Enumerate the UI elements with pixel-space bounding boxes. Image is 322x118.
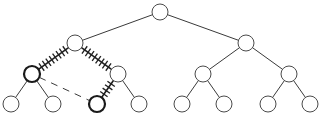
- tree-node-n6: [281, 66, 297, 82]
- edge-solid-n6-n14: [294, 81, 306, 98]
- hatch-tick: [100, 92, 107, 97]
- edge-solid-n5-n11: [187, 81, 199, 98]
- edge-solid-n0-n1: [83, 15, 153, 41]
- edge-hatched-n4-n9: [100, 81, 115, 98]
- edge-hatched-n1-n3: [38, 46, 68, 70]
- tree-node-n8: [45, 96, 61, 112]
- edge-solid-n4-n10: [123, 81, 135, 98]
- edge-solid-n3-n8: [37, 81, 49, 98]
- hatch-tick: [42, 61, 47, 68]
- tree-node-n1: [67, 35, 83, 51]
- hatch-tick: [92, 54, 97, 61]
- tree-node-n4: [110, 66, 126, 82]
- edge-solid-n2-n5: [209, 48, 239, 70]
- tree-node-n2: [238, 35, 254, 51]
- edge-solid-n6-n13: [273, 81, 285, 98]
- hatch-tick: [106, 63, 111, 70]
- edge-solid-n2-n6: [252, 48, 282, 70]
- edge-solid-n0-n2: [168, 15, 239, 41]
- tree-node-n0: [152, 4, 168, 20]
- hatch-tick: [63, 46, 68, 53]
- hatch-tick: [107, 81, 114, 86]
- tree-node-n12: [216, 96, 232, 112]
- tree-node-n5: [195, 66, 211, 82]
- tree-node-n10: [131, 96, 147, 112]
- edge-solid-n3-n7: [16, 81, 28, 98]
- tree-node-n11: [174, 96, 190, 112]
- hatch-tick: [82, 46, 87, 53]
- hatch-tick: [53, 54, 58, 61]
- hatch-tick: [46, 59, 51, 66]
- highlighted-tree-node-n9: [89, 96, 105, 112]
- hatch-tick: [85, 49, 90, 56]
- edge-dashed-n3-n9: [39, 77, 89, 100]
- hatch-tick: [96, 56, 101, 63]
- edges-layer: [16, 15, 306, 101]
- hatch-tick: [59, 49, 64, 56]
- tree-node-n13: [260, 96, 276, 112]
- highlighted-tree-node-n3: [24, 66, 40, 82]
- tree-node-n7: [3, 96, 19, 112]
- edge-hatched-n1-n4: [81, 46, 111, 70]
- edge-solid-n5-n12: [208, 81, 220, 98]
- binary-tree-diagram: [0, 0, 322, 118]
- tree-node-n14: [302, 96, 318, 112]
- hatch-tick: [103, 88, 110, 93]
- hatch-tick: [56, 51, 61, 58]
- hatch-tick: [89, 51, 94, 58]
- hatch-tick: [99, 59, 104, 66]
- hatch-tick: [105, 85, 112, 90]
- hatch-tick: [102, 61, 107, 68]
- hatch-tick: [49, 56, 54, 63]
